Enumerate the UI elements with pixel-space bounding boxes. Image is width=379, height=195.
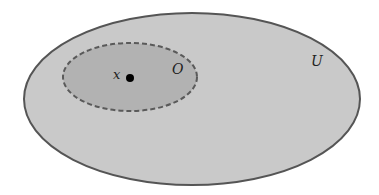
point-x-label: x [113, 67, 121, 82]
inner-set-label: O [172, 61, 184, 77]
point-x [126, 74, 134, 82]
set-diagram: x O U [0, 0, 379, 195]
outer-set-U [24, 13, 360, 185]
outer-set-label: U [311, 53, 324, 69]
